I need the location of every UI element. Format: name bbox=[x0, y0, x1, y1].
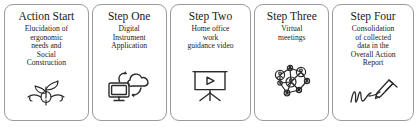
flow-card-title: Step Two bbox=[189, 10, 232, 23]
process-flow-diagram: Action Start Elucidation of ergonomic ne… bbox=[0, 0, 418, 127]
people-network-icon bbox=[258, 43, 325, 118]
cloud-monitor-sync-icon bbox=[96, 52, 163, 118]
flow-card-body: Consolidation of collected data in the O… bbox=[351, 25, 396, 68]
flow-card-title: Step Three bbox=[267, 10, 317, 23]
projector-screen-play-icon bbox=[174, 52, 248, 118]
sprout-plant-icon bbox=[8, 69, 85, 118]
flow-card-step-two[interactable]: Step Two Home office work guidance video bbox=[170, 4, 252, 121]
flow-card-body: Digital Instrument Application bbox=[111, 25, 147, 51]
flow-card-step-four[interactable]: Step Four Consolidation of collected dat… bbox=[332, 4, 414, 121]
flow-card-title: Action Start bbox=[18, 10, 74, 23]
flow-card-title: Step One bbox=[108, 10, 150, 23]
signature-pen-icon bbox=[336, 69, 410, 118]
flow-card-action-start[interactable]: Action Start Elucidation of ergonomic ne… bbox=[4, 4, 89, 121]
flow-card-step-one[interactable]: Step One Digital Instrument Application bbox=[92, 4, 167, 121]
flow-card-step-three[interactable]: Step Three Virtual meetings bbox=[254, 4, 329, 121]
flow-card-title: Step Four bbox=[351, 10, 396, 23]
flow-card-body: Virtual meetings bbox=[278, 25, 305, 42]
flow-card-body: Home office work guidance video bbox=[187, 25, 233, 51]
flow-card-body: Elucidation of ergonomic needs and Socia… bbox=[25, 25, 68, 68]
